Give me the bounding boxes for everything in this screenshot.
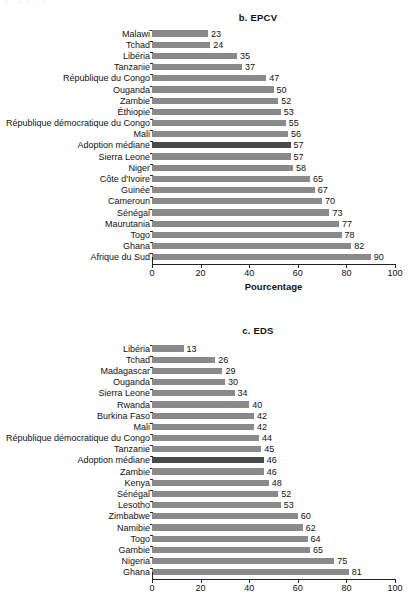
bar-category-label: Côte d'Ivoire [100,174,150,184]
bar-track: 53 [152,500,416,511]
bar-category-label: Sénégal [117,208,150,218]
x-axis-tick-label: 20 [196,268,206,278]
axis-left-cap [152,257,153,264]
x-axis-tick-label: 100 [387,268,402,278]
bar-row: Tanzanie45 [0,444,416,455]
bar-category-label: Madagascar [100,366,150,376]
bar-value-label: 65 [310,174,323,184]
bar-value-label: 81 [349,567,362,577]
bar-row: Sénégal73 [0,207,416,218]
bar [152,75,266,81]
x-axis-tick-label: 0 [149,583,154,593]
plot-area-epcv: Malawi23Tchad24Libéria35Tanzanie37Républ… [0,28,416,293]
bar [152,221,339,227]
bar-value-label: 50 [274,85,287,95]
bar-track: 24 [152,39,416,50]
bar-category-label: Maurutania [105,219,150,229]
bar-category-label: Rwanda [117,400,150,410]
bar-row: Ouganda30 [0,377,416,388]
bar-category-label: Tanzanie [114,62,150,72]
x-axis: 020406080100Pourcentage [0,263,416,293]
bar-value-label: 57 [291,140,304,150]
bar-category-label: Lesotho [118,500,150,510]
bar-category-label: Niger [128,163,150,173]
bar [152,491,278,497]
bar-row: République démocratique du Congo44 [0,433,416,444]
bar-row: Madagascar29 [0,365,416,376]
x-axis-tick-label: 40 [244,583,254,593]
bar-row: Sénégal52 [0,488,416,499]
bar-category-label: Nigeria [121,556,150,566]
bar-track: 50 [152,84,416,95]
bar [152,165,293,171]
axis-left-cap [152,572,153,579]
x-axis-tick-label: 0 [149,268,154,278]
bar-value-label: 42 [254,411,267,421]
bar-value-label: 37 [242,62,255,72]
bar-value-label: 40 [249,400,262,410]
bar-row: République démocratique du Congo55 [0,118,416,129]
bar-category-label: Éthiopie [117,107,150,117]
bar-track: 64 [152,533,416,544]
bar-category-label: République démocratique du Congo [6,433,150,443]
bar-row: Libéria13 [0,343,416,354]
bar-row: Mali56 [0,129,416,140]
bar-row: Tchad26 [0,354,416,365]
x-axis-title: Pourcentage [152,281,395,292]
bar [152,187,315,193]
bar-track: 45 [152,444,416,455]
bar-value-label: 75 [334,556,347,566]
bar [152,98,278,104]
bar [152,176,310,182]
bar-value-label: 60 [298,511,311,521]
bar-value-label: 26 [215,355,228,365]
bar [152,536,308,542]
x-axis-tick-label: 80 [341,583,351,593]
bar-row: Tchad24 [0,39,416,50]
bar-track: 34 [152,388,416,399]
bar [152,390,235,396]
bar-row: Maurutania77 [0,218,416,229]
bar-category-label: Kenya [124,478,150,488]
bar-row: Gambie65 [0,544,416,555]
bar-track: 78 [152,229,416,240]
bar-category-label: Zambie [120,96,150,106]
bar [152,232,342,238]
bar-category-label: Burkina Faso [97,411,150,421]
bar-category-label: Sénégal [117,489,150,499]
bar-value-label: 57 [291,152,304,162]
bar [152,153,291,159]
bar-row: Namibie62 [0,522,416,533]
bar-row: Adoption médiane46 [0,455,416,466]
bar-category-label: Guinée [121,185,150,195]
bar [152,424,254,430]
bar-track: 75 [152,556,416,567]
bar-row: Zimbabwe60 [0,511,416,522]
bar [152,30,208,36]
bar [152,435,259,441]
bar-row: Mali42 [0,421,416,432]
bar-value-label: 56 [288,129,301,139]
bar-category-label: Zambie [120,467,150,477]
bar-category-label: Malawi [122,29,150,39]
bar [152,53,237,59]
bar [152,468,264,474]
bar-row: Afrique du Sud90 [0,252,416,263]
bar-track: 60 [152,511,416,522]
bar-track: 57 [152,151,416,162]
bar-row: Burkina Faso42 [0,410,416,421]
x-axis-tick-label: 20 [196,583,206,593]
bar-value-label: 42 [254,422,267,432]
bar [152,368,222,374]
bar-track: 46 [152,455,416,466]
plot-area-eds: Libéria13Tchad26Madagascar29Ouganda30Sie… [0,343,416,608]
bar [152,64,242,70]
x-axis: 020406080100 [0,578,416,608]
bar-track: 55 [152,118,416,129]
bar-category-label: Mali [133,129,150,139]
bar-track: 90 [152,252,416,263]
bar-track: 70 [152,196,416,207]
bar-track: 73 [152,207,416,218]
bar-value-label: 52 [278,96,291,106]
bar-category-label: Adoption médiane [77,455,150,465]
